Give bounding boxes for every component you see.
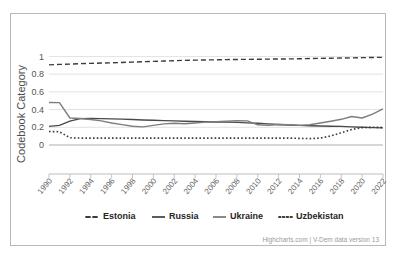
x-tick-label: 1990 bbox=[36, 176, 55, 196]
y-tick-label: 0.8 bbox=[31, 69, 44, 79]
x-tick-label: 2002 bbox=[161, 176, 180, 196]
x-tick-label: 2018 bbox=[328, 176, 347, 196]
x-tick-label: 1994 bbox=[77, 176, 96, 196]
x-tick-label: 2006 bbox=[203, 176, 222, 196]
x-tick-label: 2020 bbox=[349, 176, 368, 196]
data-series-group bbox=[49, 57, 383, 138]
x-tick-label: 1996 bbox=[98, 176, 117, 196]
x-tick-label: 1998 bbox=[119, 176, 138, 196]
legend-label-ukraine[interactable]: Ukraine bbox=[230, 211, 263, 221]
series-line-estonia[interactable] bbox=[49, 57, 383, 65]
x-tick-label: 2012 bbox=[265, 176, 284, 196]
x-tick-label: 1992 bbox=[57, 176, 76, 196]
x-tick-label: 2016 bbox=[307, 176, 326, 196]
legend-label-russia[interactable]: Russia bbox=[169, 211, 200, 221]
chart-container: 00.20.40.60.81 1990199219941996199820002… bbox=[10, 13, 386, 246]
chart-credits[interactable]: Highcharts.com | V-Dem data version 13 bbox=[262, 236, 379, 244]
chart-plot-wrapper: 00.20.40.60.81 1990199219941996199820002… bbox=[11, 14, 387, 247]
y-tick-label: 0.6 bbox=[31, 87, 44, 97]
gridlines-group bbox=[49, 56, 383, 145]
series-line-ukraine[interactable] bbox=[49, 102, 383, 126]
x-tick-label: 2008 bbox=[224, 176, 243, 196]
line-chart: 00.20.40.60.81 1990199219941996199820002… bbox=[11, 14, 387, 247]
axes-group bbox=[49, 145, 383, 174]
y-axis-title: Codebook Category bbox=[15, 65, 27, 163]
x-tick-label: 2000 bbox=[140, 176, 159, 196]
legend-label-uzbekistan[interactable]: Uzbekistan bbox=[296, 211, 344, 221]
y-tick-label: 0.2 bbox=[31, 122, 44, 132]
chart-legend[interactable]: EstoniaRussiaUkraineUzbekistan bbox=[86, 211, 344, 221]
x-tick-label: 2010 bbox=[244, 176, 263, 196]
y-axis-ticks: 00.20.40.60.81 bbox=[31, 52, 44, 151]
series-line-russia[interactable] bbox=[49, 118, 383, 127]
y-tick-label: 1 bbox=[39, 52, 44, 62]
series-line-uzbekistan[interactable] bbox=[49, 127, 383, 138]
x-tick-label: 2014 bbox=[286, 176, 305, 196]
y-tick-label: 0.4 bbox=[31, 105, 44, 115]
legend-label-estonia[interactable]: Estonia bbox=[103, 211, 137, 221]
x-tick-label: 2022 bbox=[370, 176, 387, 196]
x-tick-label: 2004 bbox=[182, 176, 201, 196]
y-tick-label: 0 bbox=[39, 140, 44, 150]
x-axis-ticks: 1990199219941996199820002002200420062008… bbox=[36, 174, 387, 196]
